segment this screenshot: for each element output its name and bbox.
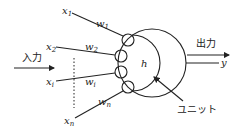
synapse-circle-1	[122, 34, 134, 46]
neuron-diagram: 入力 出力 y h ユニット x1 x2 xi xn w1 w2 wi wn	[0, 0, 239, 130]
synapse-circle-2	[115, 50, 127, 62]
unit-pointer	[154, 77, 183, 101]
x1-label: x1	[62, 5, 72, 18]
unit-label: ユニット	[177, 104, 217, 115]
input-label: 入力	[22, 51, 42, 63]
x2-label: x2	[46, 41, 57, 54]
output-var: y	[220, 57, 227, 68]
wi-label: wi	[85, 76, 96, 89]
unit-circle	[118, 29, 186, 97]
xi-label: xi	[46, 76, 54, 89]
xn-label: xn	[64, 115, 75, 128]
output-label: 出力	[196, 37, 216, 49]
threshold-label: h	[141, 58, 147, 69]
w1-label: w1	[96, 18, 109, 31]
